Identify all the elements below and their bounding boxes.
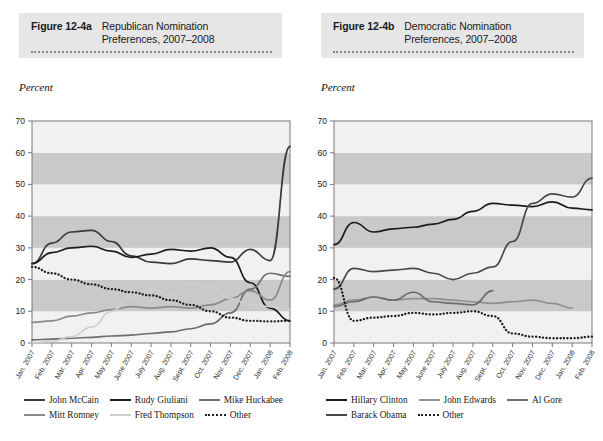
legend-item[interactable]: Other [205,410,251,420]
y-tick-label: 0 [20,338,25,348]
legend-label: John McCain [49,395,99,405]
figure-title-a-line1: Republican Nomination [102,20,215,33]
legend-label: Mike Huckabee [224,395,283,405]
chart-republican: 010203040506070Jan. 2007Feb. 2007Mar. 20… [0,103,301,393]
plot-band-dark [32,153,290,185]
figure-panel-republican: Figure 12-4a Republican Nomination Prefe… [0,0,301,441]
y-tick-label: 50 [16,179,26,189]
y-tick-label: 30 [16,243,26,253]
y-tick-label: 50 [318,179,328,189]
y-tick-label: 60 [318,148,328,158]
legend-item[interactable]: Barack Obama [326,410,407,420]
legend-swatch-icon [418,414,439,416]
figure-number-b: Figure 12-4b [333,20,394,45]
y-tick-label: 10 [16,306,26,316]
legend-item[interactable]: Rudy Giuliani [110,395,188,405]
line-chart-republican-svg: 010203040506070Jan. 2007Feb. 2007Mar. 20… [0,103,301,393]
plot-band-dark [334,153,592,185]
legend-democratic: Hillary ClintonJohn EdwardsAl GoreBarack… [302,392,603,422]
legend-row: Barack ObamaOther [302,407,603,422]
legend-label: Hillary Clinton [351,395,408,405]
y-tick-label: 70 [318,116,328,126]
legend-swatch-icon [205,414,226,416]
legend-swatch-icon [110,414,131,416]
figure-header-b: Figure 12-4b Democratic Nomination Prefe… [321,13,584,58]
legend-label: Al Gore [532,395,562,405]
legend-swatch-icon [110,399,131,401]
legend-row: Mitt RomneyFred ThompsonOther [0,407,301,422]
legend-item[interactable]: John McCain [24,395,99,405]
legend-item[interactable]: Al Gore [507,395,562,405]
plot-band-light [32,184,290,216]
plot-band-dark [334,280,592,312]
plot-band-light [32,121,290,153]
y-axis-label-b: Percent [321,81,355,93]
legend-item[interactable]: Mike Huckabee [199,395,283,405]
legend-swatch-icon [24,399,45,401]
figure-number-a: Figure 12-4a [31,20,92,45]
figure-title-a: Republican Nomination Preferences, 2007–… [102,20,215,45]
header-dotted-rule-b [333,49,574,53]
y-tick-label: 30 [318,243,328,253]
legend-label: Fred Thompson [135,410,194,420]
figure-title-b-line2: Preferences, 2007–2008 [404,33,517,46]
figure-title-b: Democratic Nomination Preferences, 2007–… [404,20,517,45]
legend-label: Other [443,410,464,420]
y-tick-label: 10 [318,306,328,316]
figure-title-a-line2: Preferences, 2007–2008 [102,33,215,46]
legend-swatch-icon [507,399,528,401]
figure-title-b-line1: Democratic Nomination [404,20,517,33]
legend-swatch-icon [24,414,45,416]
legend-swatch-icon [199,399,220,401]
plot-band-light [334,184,592,216]
legend-swatch-icon [419,399,440,401]
legend-label: Barack Obama [351,410,407,420]
legend-label: Mitt Romney [49,410,99,420]
y-tick-label: 40 [16,211,26,221]
chart-democratic: 010203040506070Jan. 2007Feb. 2007Mar. 20… [302,103,603,393]
y-tick-label: 60 [16,148,26,158]
legend-republican: John McCainRudy GiulianiMike HuckabeeMit… [0,392,301,422]
legend-item[interactable]: Fred Thompson [110,410,194,420]
y-tick-label: 20 [16,275,26,285]
legend-item[interactable]: John Edwards [419,395,496,405]
legend-swatch-icon [326,414,347,416]
y-tick-label: 40 [318,211,328,221]
figure-panel-democratic: Figure 12-4b Democratic Nomination Prefe… [302,0,603,441]
plot-band-light [334,248,592,280]
y-tick-label: 0 [322,338,327,348]
figure-page: Figure 12-4a Republican Nomination Prefe… [0,0,603,441]
figure-header-a: Figure 12-4a Republican Nomination Prefe… [19,13,282,58]
legend-row: Hillary ClintonJohn EdwardsAl Gore [302,392,603,407]
line-chart-democratic-svg: 010203040506070Jan. 2007Feb. 2007Mar. 20… [302,103,603,393]
legend-item[interactable]: Mitt Romney [24,410,99,420]
legend-swatch-icon [326,399,347,401]
legend-label: Other [230,410,251,420]
legend-label: Rudy Giuliani [135,395,188,405]
y-axis-label-a: Percent [19,81,53,93]
y-tick-label: 20 [318,275,328,285]
y-tick-label: 70 [16,116,26,126]
legend-row: John McCainRudy GiulianiMike Huckabee [0,392,301,407]
plot-band-light [334,121,592,153]
header-dotted-rule-a [31,49,272,53]
legend-item[interactable]: Hillary Clinton [326,395,408,405]
legend-item[interactable]: Other [418,410,464,420]
legend-label: John Edwards [444,395,496,405]
